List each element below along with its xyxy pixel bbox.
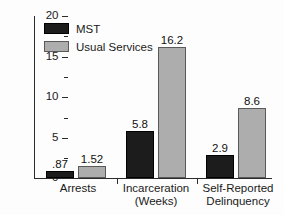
bar-mst-incarceration: 5.8 <box>126 131 154 178</box>
y-tick-major: 20 <box>62 16 69 17</box>
legend-label: MST <box>76 23 100 35</box>
bar-mst-arrests: .87 <box>46 171 74 178</box>
y-tick-major: 0 <box>62 178 69 179</box>
y-tick-major: 15 <box>62 57 69 58</box>
y-tick-minor <box>64 77 69 78</box>
y-tick-label: 10 <box>35 91 62 103</box>
y-tick-minor <box>64 118 69 119</box>
bar-usual-arrests: 1.52 <box>78 166 106 178</box>
bar-value-label: 1.52 <box>81 153 103 165</box>
legend-item-usual-services: Usual Services <box>44 38 153 55</box>
x-axis-label-delinquency: Self-Reported Delinquency <box>194 182 282 207</box>
bar-usual-delinquency: 8.6 <box>238 108 266 178</box>
bar-value-label: 16.2 <box>161 34 183 46</box>
bar-value-label: 2.9 <box>212 142 228 154</box>
x-axis-label-incarceration: Incarceration (Weeks) <box>114 182 198 207</box>
y-tick-major: 5 <box>62 138 69 139</box>
y-tick-label: 5 <box>35 132 62 144</box>
bar-value-label: 5.8 <box>132 118 148 130</box>
bar-mst-delinquency: 2.9 <box>206 155 234 179</box>
x-axis-line <box>34 178 272 179</box>
bar-chart: 20 15 10 5 0 .87 1.52 5.8 16.2 <box>0 0 284 215</box>
bar-value-label: 8.6 <box>244 95 260 107</box>
legend-swatch-icon <box>44 23 69 34</box>
bar-value-label: .87 <box>52 158 68 170</box>
x-axis-label-arrests: Arrests <box>36 182 120 195</box>
y-tick-major: 10 <box>62 97 69 98</box>
legend-item-mst: MST <box>44 20 153 37</box>
legend: MST Usual Services <box>44 20 153 56</box>
legend-label: Usual Services <box>76 41 153 53</box>
legend-swatch-icon <box>44 41 69 52</box>
bar-usual-incarceration: 16.2 <box>158 47 186 178</box>
